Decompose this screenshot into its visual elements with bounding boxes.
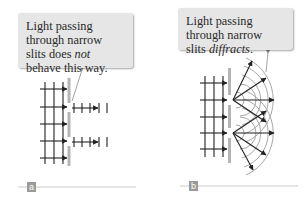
slit-barrier-b — [228, 68, 231, 163]
slit-barrier-a — [68, 78, 71, 166]
panel-a-diagram — [18, 67, 136, 187]
callout-b-emphasis: diffracts — [209, 42, 250, 56]
callout-a: Light passing through narrow slits does … — [18, 13, 133, 68]
callout-a-text-end: behave this way. — [26, 61, 108, 75]
transmitted-beams-a — [72, 103, 107, 147]
callout-b: Light passing through narrow slits diffr… — [178, 8, 293, 50]
callout-b-leader-line — [266, 53, 268, 72]
panel-label-b: b — [189, 181, 198, 191]
incident-wavefronts-a — [45, 82, 63, 164]
diffraction-wavefronts — [236, 58, 273, 175]
callout-a-text: Light passing through narrow slits does — [26, 19, 102, 61]
callout-b-text-end: . — [250, 42, 253, 56]
panel-label-a: a — [27, 182, 36, 192]
callout-a-emphasis: not — [75, 47, 91, 61]
panel-b-diagram — [180, 50, 298, 186]
